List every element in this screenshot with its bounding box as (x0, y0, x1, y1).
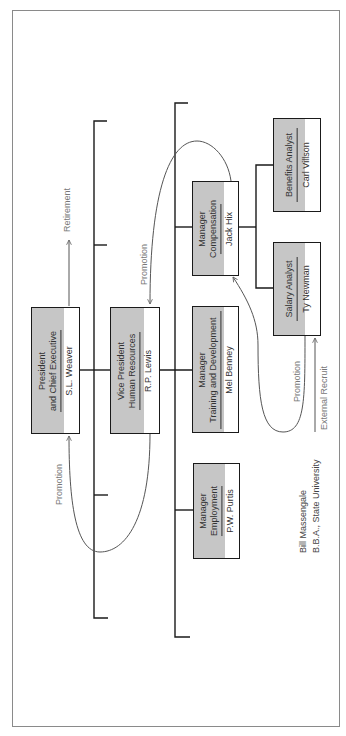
president-name: S.L. Weaver (64, 330, 74, 412)
promotion-to-vp-label: Promotion (139, 244, 149, 285)
box-mgr-compensation: Manager Compensation Jack Hix (192, 181, 239, 276)
training-title-1: Manager (197, 311, 208, 429)
promotion-to-mgr-comp-label: Promotion (292, 361, 302, 402)
benefits-title: Benefits Analyst (284, 128, 295, 202)
employment-name: P.W. Purtis (225, 486, 235, 536)
president-title-2: and Chief Executive (47, 330, 58, 412)
box-benefits-analyst: Benefits Analyst Carl Villson (273, 118, 321, 212)
divider (220, 311, 221, 429)
divider (60, 330, 61, 412)
box-mgr-employment: Manager Employment P.W. Purtis (193, 463, 240, 559)
employment-title-2: Employment (208, 486, 219, 536)
comp-title-1: Manager (197, 199, 208, 257)
divider (221, 486, 222, 536)
right-bracket (159, 103, 193, 637)
president-title-1: President (37, 330, 48, 412)
salary-title: Salary Analyst (284, 257, 295, 321)
box-president: President and Chief Executive S.L. Weave… (31, 307, 80, 434)
divider (220, 204, 221, 254)
divider (296, 128, 297, 202)
salary-name: Ty Newman (300, 257, 310, 321)
external-recruit-label: External Recruit (319, 366, 329, 430)
divider (296, 257, 297, 321)
comp-title-2: Compensation (207, 199, 218, 257)
training-name: Mel Benney (224, 311, 234, 429)
benefits-name: Carl Villson (300, 128, 310, 202)
comp-name: Jack Hix (224, 199, 234, 257)
divider (139, 332, 140, 410)
analyst-connector (238, 165, 273, 288)
retirement-label: Retirement (62, 188, 72, 232)
promotion-to-president-label: Promotion (54, 464, 64, 505)
box-mgr-training: Manager Training and Development Mel Ben… (192, 306, 239, 433)
promotion-to-president-arrow (69, 434, 150, 552)
vp-title-2: Human Resources (127, 332, 138, 410)
left-bracket (79, 121, 110, 618)
employment-title-1: Manager (198, 486, 209, 536)
vp-name: R.P. Lewis (144, 332, 154, 410)
vp-title-1: Vice President (116, 332, 127, 410)
recruit-credential: B.B.A., State University (311, 459, 321, 553)
recruit-name: Bill Massengale (298, 490, 308, 553)
training-title-2: Training and Development (207, 311, 218, 429)
box-vp-hr: Vice President Human Resources R.P. Lewi… (110, 307, 160, 434)
box-salary-analyst: Salary Analyst Ty Newman (273, 242, 321, 336)
